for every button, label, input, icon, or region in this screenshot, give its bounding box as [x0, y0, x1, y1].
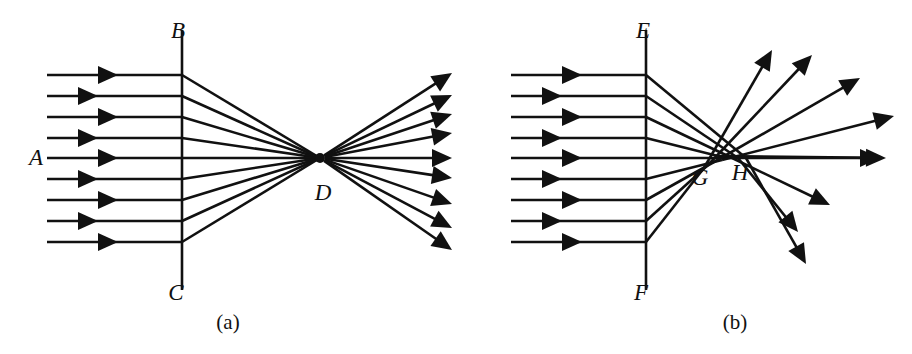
surface-top-label-e: E	[636, 19, 650, 42]
panel-caption-a: (a)	[216, 312, 239, 333]
focal-point-d	[315, 153, 325, 163]
diverging-ray-a-0	[324, 79, 443, 155]
incoming-ray-arrowhead-a-4	[98, 149, 118, 167]
diverging-ray-a-7	[324, 160, 442, 223]
incoming-ray-arrowhead-a-6	[98, 191, 118, 209]
incoming-ray-arrowhead-a-3	[78, 129, 98, 147]
incoming-ray-arrowhead-b-7	[542, 212, 562, 230]
converging-ray-a-2	[182, 117, 320, 158]
incoming-ray-arrowhead-b-1	[542, 87, 562, 105]
surface-bottom-label-c: C	[168, 281, 183, 304]
incoming-ray-arrowhead-b-2	[562, 108, 582, 126]
beam-label-a: A	[29, 146, 43, 169]
incoming-ray-arrowhead-b-5	[542, 170, 562, 188]
outgoing-ray-b-6	[714, 83, 850, 162]
incoming-ray-arrowhead-b-3	[542, 129, 562, 147]
ray-diagram-canvas	[0, 0, 912, 354]
crossing-label-g: G	[692, 166, 709, 189]
diverging-ray-a-1	[325, 100, 443, 156]
diverging-ray-arrowhead-a-8	[430, 231, 452, 250]
diverging-ray-arrowhead-a-3	[431, 128, 452, 146]
diverging-ray-arrowhead-a-5	[431, 166, 452, 184]
incoming-ray-arrowhead-a-7	[78, 212, 98, 230]
incoming-ray-arrowhead-a-1	[78, 87, 98, 105]
converging-ray-a-0	[182, 75, 320, 158]
optics-figure: ABCD(a)EFGH(b)	[0, 0, 912, 354]
outgoing-ray-arrowhead-b-8	[754, 50, 772, 72]
outgoing-ray-arrowhead-b-5	[872, 112, 894, 129]
diverging-ray-arrowhead-a-2	[430, 112, 452, 129]
focus-label-d: D	[315, 181, 332, 204]
incoming-ray-arrowhead-b-4	[562, 149, 582, 167]
diverging-ray-arrowhead-a-6	[430, 189, 452, 206]
incoming-ray-arrowhead-b-0	[562, 66, 582, 84]
surface-bottom-label-f: F	[634, 281, 648, 304]
outgoing-ray-b-0	[746, 158, 801, 254]
incoming-ray-arrowhead-a-2	[98, 108, 118, 126]
aberrated-ray-b-0	[646, 75, 746, 158]
outgoing-ray-arrowhead-b-0	[788, 242, 806, 264]
incoming-ray-arrowhead-b-6	[562, 191, 582, 209]
diverging-ray-a-2	[325, 117, 442, 156]
crossing-label-h: H	[732, 161, 749, 184]
panel-caption-b: (b)	[723, 312, 748, 333]
outgoing-ray-arrowhead-b-1	[778, 211, 798, 232]
incoming-ray-arrowhead-a-8	[98, 233, 118, 251]
outgoing-ray-arrowhead-b-6	[838, 78, 860, 96]
incoming-ray-arrowhead-b-8	[562, 233, 582, 251]
incoming-ray-arrowhead-a-0	[98, 66, 118, 84]
diverging-ray-arrowhead-a-0	[430, 73, 452, 91]
surface-top-label-b: B	[171, 19, 185, 42]
incoming-ray-arrowhead-a-5	[78, 170, 98, 188]
diverging-ray-arrowhead-a-4	[432, 149, 452, 167]
converging-ray-a-6	[182, 158, 320, 200]
diverging-ray-a-6	[325, 160, 442, 201]
converging-ray-a-8	[182, 158, 320, 242]
